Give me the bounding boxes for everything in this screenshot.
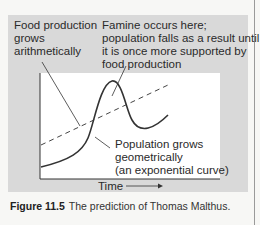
caption-text: The prediction of Thomas Malthus.: [69, 200, 230, 212]
caption-number: Figure 11.5: [10, 200, 65, 212]
arrowhead-icon: [158, 184, 163, 189]
label-line: Population grows: [115, 138, 229, 151]
x-axis-label: Time: [98, 180, 123, 193]
malthus-chart: [0, 0, 260, 225]
label-line: geometrically: [115, 151, 229, 164]
population-label: Population grows geometrically (an expon…: [115, 138, 229, 177]
figure-caption: Figure 11.5The prediction of Thomas Malt…: [10, 200, 230, 212]
label-line: (an exponential curve): [115, 164, 229, 177]
